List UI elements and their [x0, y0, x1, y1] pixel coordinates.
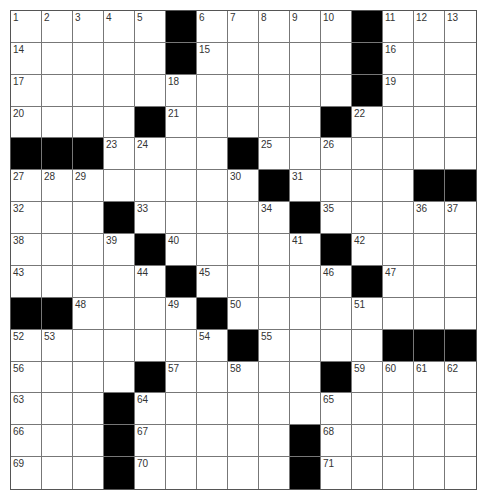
- crossword-cell[interactable]: [259, 75, 290, 107]
- crossword-cell[interactable]: [42, 234, 73, 266]
- crossword-cell[interactable]: [259, 393, 290, 425]
- crossword-cell[interactable]: [259, 43, 290, 75]
- crossword-cell[interactable]: 45: [197, 266, 228, 298]
- crossword-cell[interactable]: [73, 330, 104, 362]
- crossword-cell[interactable]: 58: [228, 362, 259, 394]
- crossword-cell[interactable]: [259, 457, 290, 489]
- crossword-cell[interactable]: [383, 107, 414, 139]
- crossword-cell[interactable]: [42, 43, 73, 75]
- crossword-cell[interactable]: [259, 266, 290, 298]
- crossword-cell[interactable]: [321, 298, 352, 330]
- crossword-cell[interactable]: [414, 43, 445, 75]
- crossword-cell[interactable]: 68: [321, 425, 352, 457]
- crossword-cell[interactable]: [197, 107, 228, 139]
- crossword-cell[interactable]: [197, 393, 228, 425]
- crossword-cell[interactable]: [445, 457, 476, 489]
- crossword-cell[interactable]: [383, 457, 414, 489]
- crossword-cell[interactable]: [42, 362, 73, 394]
- crossword-cell[interactable]: [104, 107, 135, 139]
- crossword-cell[interactable]: [73, 234, 104, 266]
- crossword-cell[interactable]: [166, 425, 197, 457]
- crossword-cell[interactable]: [290, 362, 321, 394]
- crossword-cell[interactable]: 18: [166, 75, 197, 107]
- crossword-cell[interactable]: [321, 43, 352, 75]
- crossword-cell[interactable]: [73, 43, 104, 75]
- crossword-cell[interactable]: [228, 107, 259, 139]
- crossword-cell[interactable]: [290, 330, 321, 362]
- crossword-cell[interactable]: [104, 298, 135, 330]
- crossword-cell[interactable]: [197, 362, 228, 394]
- crossword-cell[interactable]: 14: [11, 43, 42, 75]
- crossword-cell[interactable]: [197, 234, 228, 266]
- crossword-cell[interactable]: [321, 330, 352, 362]
- crossword-cell[interactable]: [352, 202, 383, 234]
- crossword-cell[interactable]: 54: [197, 330, 228, 362]
- crossword-cell[interactable]: [73, 266, 104, 298]
- crossword-cell[interactable]: [445, 107, 476, 139]
- crossword-cell[interactable]: 16: [383, 43, 414, 75]
- crossword-cell[interactable]: [42, 457, 73, 489]
- crossword-cell[interactable]: 20: [11, 107, 42, 139]
- crossword-cell[interactable]: 70: [135, 457, 166, 489]
- crossword-cell[interactable]: [259, 107, 290, 139]
- crossword-cell[interactable]: [414, 298, 445, 330]
- crossword-cell[interactable]: 38: [11, 234, 42, 266]
- crossword-cell[interactable]: [383, 298, 414, 330]
- crossword-cell[interactable]: [259, 298, 290, 330]
- crossword-cell[interactable]: 41: [290, 234, 321, 266]
- crossword-cell[interactable]: [197, 75, 228, 107]
- crossword-cell[interactable]: 7: [228, 11, 259, 43]
- crossword-cell[interactable]: [383, 138, 414, 170]
- crossword-cell[interactable]: [42, 202, 73, 234]
- crossword-cell[interactable]: 17: [11, 75, 42, 107]
- crossword-cell[interactable]: [259, 234, 290, 266]
- crossword-cell[interactable]: [290, 43, 321, 75]
- crossword-cell[interactable]: 42: [352, 234, 383, 266]
- crossword-cell[interactable]: [197, 170, 228, 202]
- crossword-cell[interactable]: [445, 75, 476, 107]
- crossword-cell[interactable]: [197, 457, 228, 489]
- crossword-cell[interactable]: [73, 202, 104, 234]
- crossword-cell[interactable]: [135, 298, 166, 330]
- crossword-cell[interactable]: 53: [42, 330, 73, 362]
- crossword-cell[interactable]: [445, 234, 476, 266]
- crossword-cell[interactable]: [352, 138, 383, 170]
- crossword-cell[interactable]: 39: [104, 234, 135, 266]
- crossword-cell[interactable]: [352, 393, 383, 425]
- crossword-cell[interactable]: [259, 362, 290, 394]
- crossword-cell[interactable]: 29: [73, 170, 104, 202]
- crossword-cell[interactable]: 60: [383, 362, 414, 394]
- crossword-cell[interactable]: [73, 107, 104, 139]
- crossword-cell[interactable]: [414, 107, 445, 139]
- crossword-cell[interactable]: [104, 362, 135, 394]
- crossword-cell[interactable]: [104, 330, 135, 362]
- crossword-cell[interactable]: [197, 425, 228, 457]
- crossword-cell[interactable]: [352, 170, 383, 202]
- crossword-cell[interactable]: 26: [321, 138, 352, 170]
- crossword-cell[interactable]: 52: [11, 330, 42, 362]
- crossword-cell[interactable]: [352, 425, 383, 457]
- crossword-cell[interactable]: [383, 202, 414, 234]
- crossword-cell[interactable]: 59: [352, 362, 383, 394]
- crossword-cell[interactable]: 6: [197, 11, 228, 43]
- crossword-cell[interactable]: 25: [259, 138, 290, 170]
- crossword-cell[interactable]: [197, 202, 228, 234]
- crossword-cell[interactable]: 2: [42, 11, 73, 43]
- crossword-cell[interactable]: [73, 393, 104, 425]
- crossword-cell[interactable]: [228, 75, 259, 107]
- crossword-cell[interactable]: [383, 393, 414, 425]
- crossword-cell[interactable]: 21: [166, 107, 197, 139]
- crossword-cell[interactable]: 10: [321, 11, 352, 43]
- crossword-cell[interactable]: [166, 170, 197, 202]
- crossword-cell[interactable]: [42, 266, 73, 298]
- crossword-cell[interactable]: [290, 266, 321, 298]
- crossword-cell[interactable]: 43: [11, 266, 42, 298]
- crossword-cell[interactable]: [73, 425, 104, 457]
- crossword-cell[interactable]: 15: [197, 43, 228, 75]
- crossword-cell[interactable]: [290, 107, 321, 139]
- crossword-cell[interactable]: 35: [321, 202, 352, 234]
- crossword-cell[interactable]: 63: [11, 393, 42, 425]
- crossword-cell[interactable]: 34: [259, 202, 290, 234]
- crossword-cell[interactable]: [135, 170, 166, 202]
- crossword-cell[interactable]: [414, 266, 445, 298]
